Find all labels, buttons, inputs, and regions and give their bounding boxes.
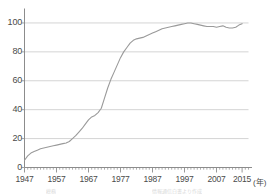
y-axis-tick-label: 100 bbox=[0, 17, 22, 27]
chart-axes bbox=[25, 9, 253, 168]
source-note-left: 総務 bbox=[46, 187, 56, 194]
x-axis-tick-label: 1967 bbox=[74, 174, 104, 184]
chart-plot-area bbox=[0, 0, 275, 195]
x-axis-tick-label: 1977 bbox=[106, 174, 136, 184]
x-axis-tick-label: 1957 bbox=[42, 174, 72, 184]
y-axis-tick-label: 40 bbox=[0, 104, 22, 114]
source-note-right: 情報通信白書より作成 bbox=[152, 187, 202, 194]
x-axis-tick-label: 1947 bbox=[10, 174, 40, 184]
y-axis-tick-label: 60 bbox=[0, 75, 22, 85]
line-chart: 020406080100 194719571967197719871997200… bbox=[0, 0, 275, 195]
x-axis-tick-label: 1987 bbox=[138, 174, 168, 184]
x-axis-tick-label: 1997 bbox=[170, 174, 200, 184]
y-axis-tick-label: 80 bbox=[0, 46, 22, 56]
y-axis-tick-label: 0 bbox=[0, 162, 22, 172]
y-axis-tick-label: 20 bbox=[0, 133, 22, 143]
gridlines bbox=[25, 23, 249, 139]
data-series-line bbox=[25, 23, 243, 160]
x-axis-ticks bbox=[25, 168, 249, 173]
x-axis-unit-label: (年) bbox=[253, 176, 266, 187]
